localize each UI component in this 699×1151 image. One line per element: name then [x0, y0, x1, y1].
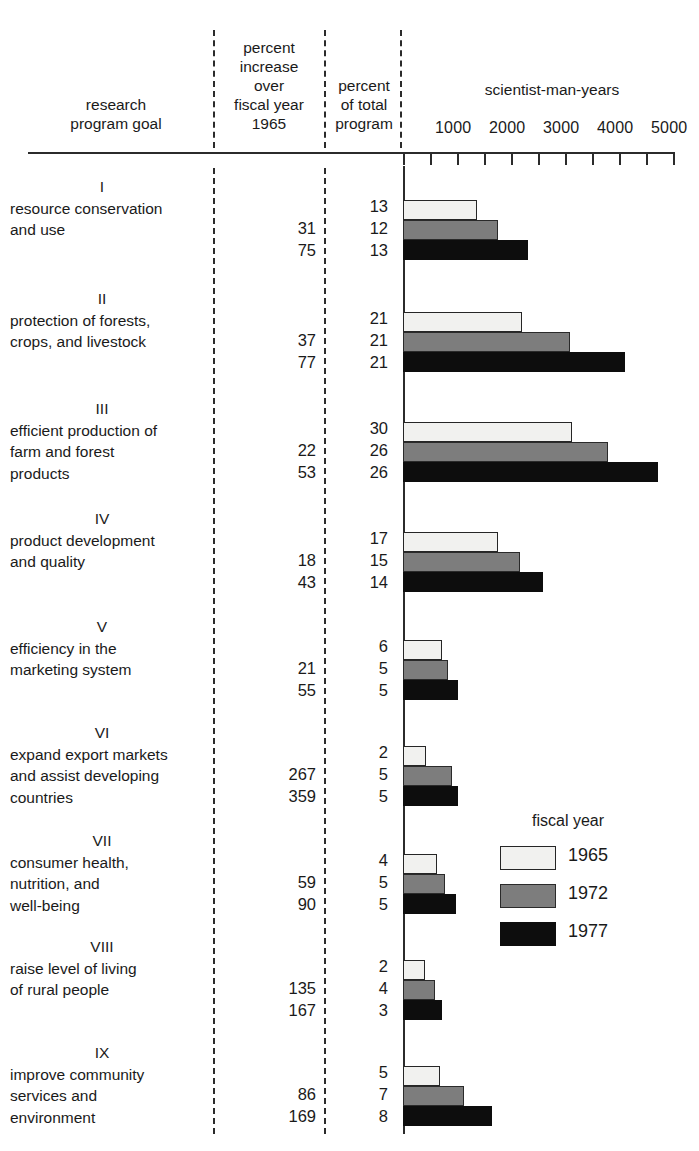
row-goal-text: efficient production of farm and forest … [10, 420, 208, 485]
row-percent-increase: 21 55 [228, 635, 316, 701]
row-goal-text: consumer health, nutrition, and well-bei… [10, 852, 208, 917]
row-label: IIIefficient production of farm and fore… [10, 398, 208, 484]
legend-swatch-1977 [500, 922, 556, 946]
header-divider-1 [213, 30, 215, 148]
legend-swatch-1972 [500, 884, 556, 908]
row-label: VIIconsumer health, nutrition, and well-… [10, 830, 208, 916]
bar-1977 [403, 572, 543, 592]
bar-1965 [403, 422, 572, 442]
row-label: IXimprove community services and environ… [10, 1042, 208, 1128]
axis-tick-4500 [646, 152, 648, 165]
row-roman-numeral: II [10, 288, 208, 310]
axis-tick-500 [430, 152, 432, 165]
row-label: VIIIraise level of living of rural peopl… [10, 936, 208, 1001]
bar-1977 [403, 352, 625, 372]
bar-1965 [403, 200, 477, 220]
row-percent-increase: 37 77 [228, 307, 316, 373]
row-roman-numeral: I [10, 176, 208, 198]
bar-1972 [403, 766, 452, 786]
row-percent-of-total: 6 5 5 [330, 635, 388, 701]
axis-tick-label-1000: 1000 [435, 119, 471, 137]
legend-item: 1965 [500, 844, 690, 874]
bar-1972 [403, 552, 520, 572]
row-roman-numeral: III [10, 398, 208, 420]
bar-1972 [403, 874, 445, 894]
row-label: VIexpand export markets and assist devel… [10, 722, 208, 808]
axis-tick-4000 [619, 152, 621, 165]
axis-tick-0 [403, 152, 405, 165]
bar-1965 [403, 746, 426, 766]
row-goal-text: expand export markets and assist develop… [10, 744, 208, 809]
bar-1977 [403, 1106, 492, 1126]
row-roman-numeral: VII [10, 830, 208, 852]
legend-item: 1977 [500, 920, 690, 950]
row-goal-text: efficiency in the marketing system [10, 638, 208, 681]
axis-tick-5000 [673, 152, 675, 165]
axis-title-scientist-man-years: scientist-man-years [410, 80, 694, 99]
axis-tick-3500 [592, 152, 594, 165]
axis-tick-label-2000: 2000 [489, 119, 525, 137]
row-percent-increase: 267 359 [228, 741, 316, 807]
axis-tick-1000 [457, 152, 459, 165]
row-percent-increase: 135 167 [228, 955, 316, 1021]
legend-title: fiscal year [532, 812, 604, 830]
row-roman-numeral: IX [10, 1042, 208, 1064]
row-label: Iresource conservation and use [10, 176, 208, 241]
header-divider-3 [400, 30, 402, 148]
bar-1972 [403, 220, 498, 240]
column-header-percent-of-total: percent of total program [330, 76, 398, 133]
axis-tick-2000 [511, 152, 513, 165]
axis-tick-3000 [565, 152, 567, 165]
legend-label-1977: 1977 [568, 921, 608, 942]
row-percent-increase: 31 75 [228, 195, 316, 261]
bar-1977 [403, 462, 658, 482]
axis-tick-label-4000: 4000 [597, 119, 633, 137]
row-label: Vefficiency in the marketing system [10, 616, 208, 681]
bar-1965 [403, 312, 522, 332]
row-roman-numeral: VI [10, 722, 208, 744]
row-percent-of-total: 13 12 13 [330, 195, 388, 261]
row-percent-increase: 18 43 [228, 527, 316, 593]
legend-item: 1972 [500, 882, 690, 912]
row-roman-numeral: IV [10, 508, 208, 530]
row-percent-of-total: 30 26 26 [330, 417, 388, 483]
legend-swatch-1965 [500, 846, 556, 870]
legend-label-1972: 1972 [568, 883, 608, 904]
row-percent-of-total: 21 21 21 [330, 307, 388, 373]
bar-1977 [403, 240, 528, 260]
row-goal-text: protection of forests, crops, and livest… [10, 310, 208, 353]
chart-page: research program goal percent increase o… [0, 0, 699, 1151]
row-percent-of-total: 17 15 14 [330, 527, 388, 593]
header-divider-2 [324, 30, 326, 148]
bar-1972 [403, 1086, 464, 1106]
row-goal-text: product development and quality [10, 530, 208, 573]
bar-1977 [403, 894, 456, 914]
bar-1965 [403, 532, 498, 552]
axis-tick-label-5000: 5000 [651, 119, 687, 137]
body-divider-2 [324, 168, 326, 1134]
axis-tick-1500 [484, 152, 486, 165]
row-percent-of-total: 4 5 5 [330, 849, 388, 915]
bar-1972 [403, 442, 608, 462]
column-header-percent-increase: percent increase over fiscal year 1965 [219, 38, 319, 133]
row-goal-text: resource conservation and use [10, 198, 208, 241]
row-goal-text: raise level of living of rural people [10, 958, 208, 1001]
bar-1977 [403, 680, 458, 700]
row-percent-increase: 59 90 [228, 849, 316, 915]
row-percent-of-total: 5 7 8 [330, 1061, 388, 1127]
column-header-research-program-goal: research program goal [28, 95, 204, 133]
body-divider-1 [213, 168, 215, 1134]
row-label: IVproduct development and quality [10, 508, 208, 573]
bar-1965 [403, 1066, 440, 1086]
row-percent-of-total: 2 5 5 [330, 741, 388, 807]
row-label: IIprotection of forests, crops, and live… [10, 288, 208, 353]
bar-1965 [403, 854, 437, 874]
axis-tick-label-3000: 3000 [543, 119, 579, 137]
bar-1965 [403, 640, 442, 660]
row-percent-of-total: 2 4 3 [330, 955, 388, 1021]
row-roman-numeral: VIII [10, 936, 208, 958]
bar-1972 [403, 660, 448, 680]
bar-1965 [403, 960, 425, 980]
bar-1972 [403, 332, 570, 352]
row-percent-increase: 86 169 [228, 1061, 316, 1127]
